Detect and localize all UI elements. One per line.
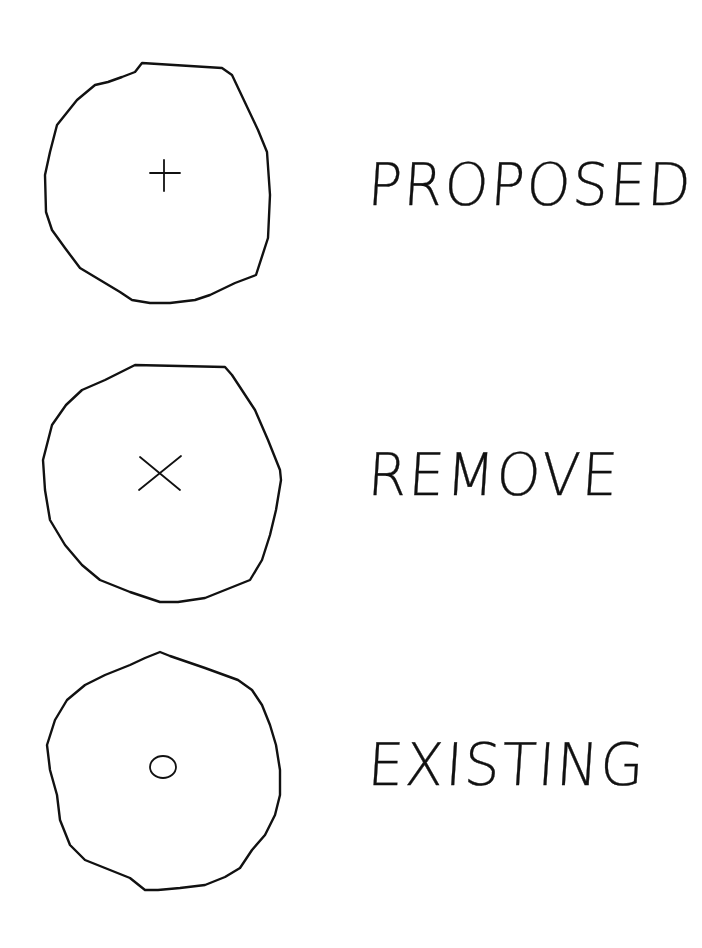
legend-label-remove: REMOVE <box>366 446 621 505</box>
legend-label-existing: EXISTING <box>366 736 648 795</box>
hand-drawn-legend: PROPOSED REMOVE EXISTING <box>0 0 702 948</box>
legend-label-proposed: PROPOSED <box>366 156 695 215</box>
